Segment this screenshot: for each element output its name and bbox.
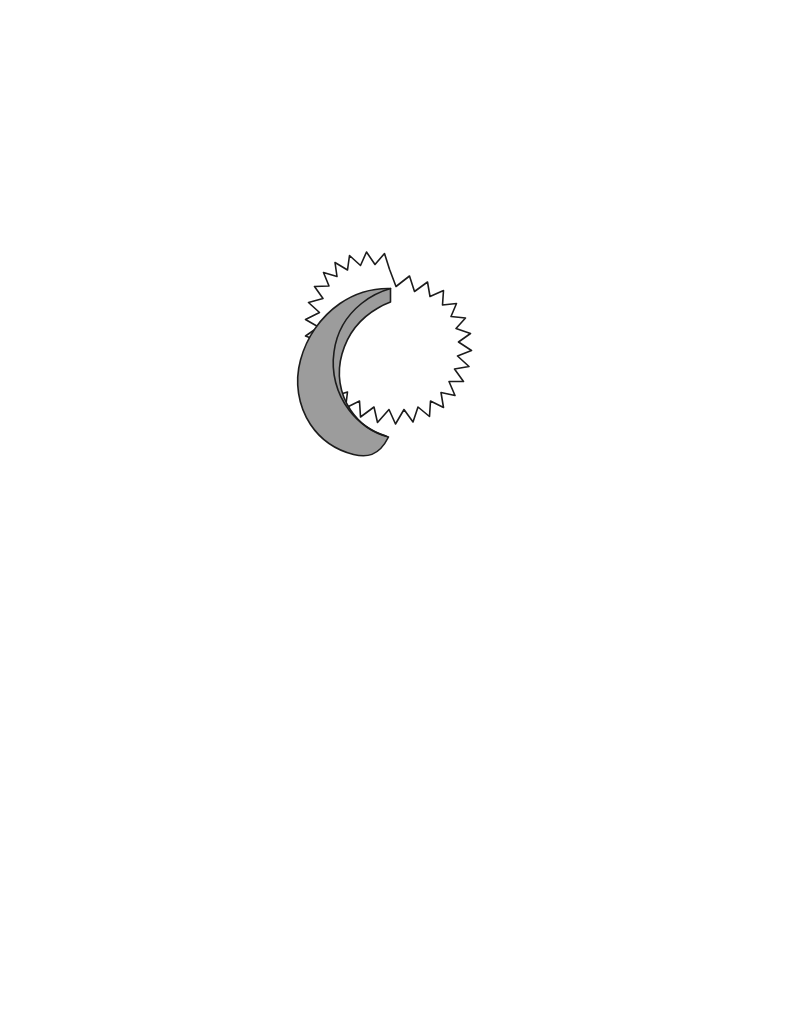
illustration-container — [0, 0, 785, 1013]
page-canvas — [0, 0, 785, 1013]
solar-eclipse-illustration — [0, 0, 785, 1013]
